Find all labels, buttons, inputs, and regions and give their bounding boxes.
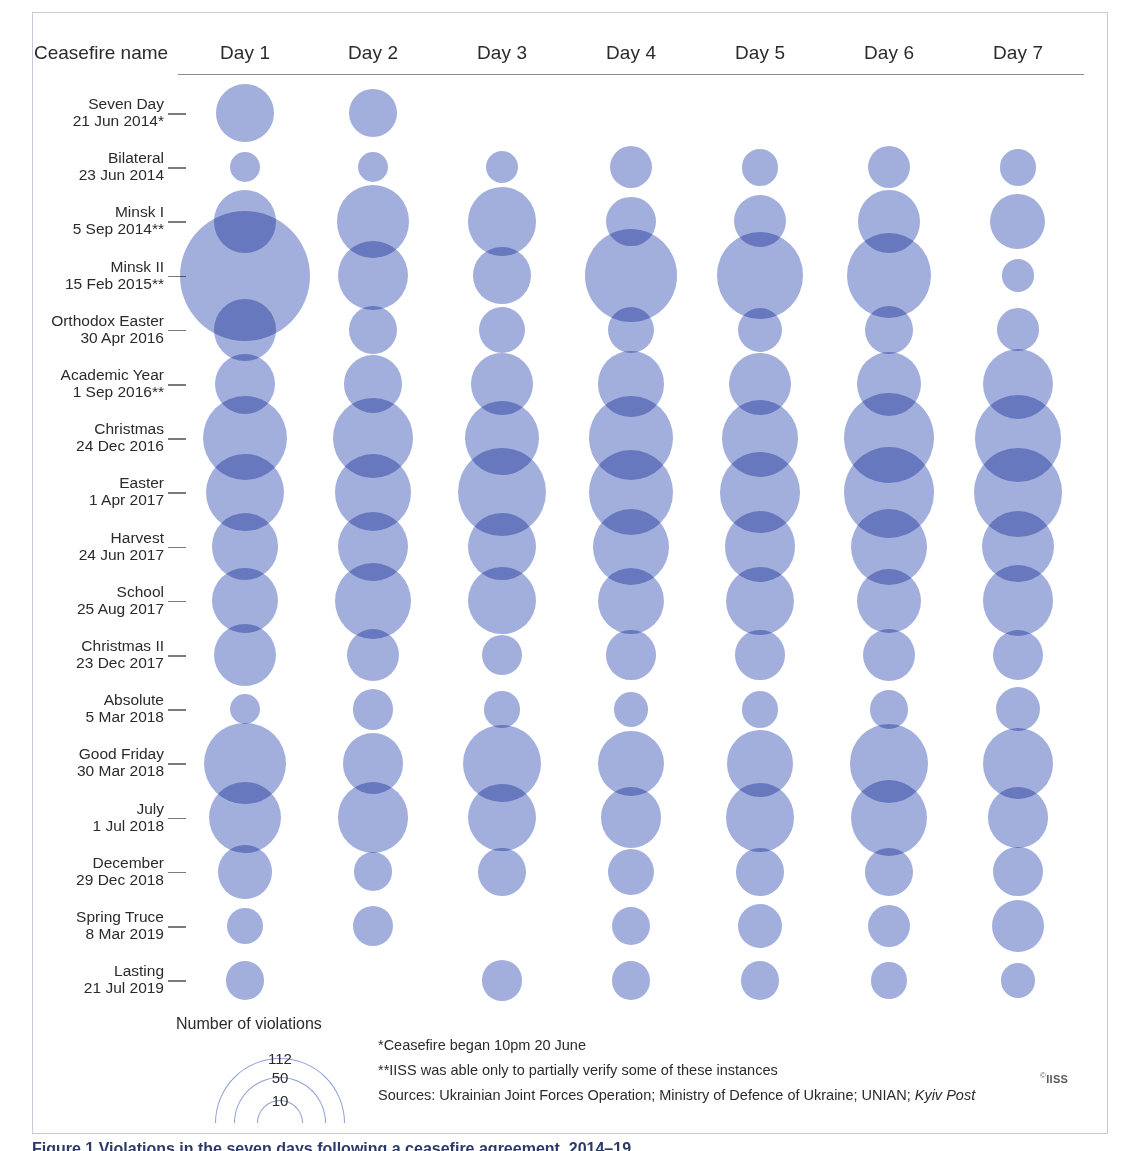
size-legend: Number of violations 1125010 [176,1015,386,1135]
row-date: 23 Dec 2017 [4,654,164,671]
row-name: Orthodox Easter [4,312,164,329]
bubble [993,847,1042,896]
footnote-1: *Ceasefire began 10pm 20 June [378,1033,975,1058]
row-date: 21 Jun 2014* [4,112,164,129]
bubble [983,565,1054,636]
row-tick [168,384,186,386]
bubble [601,787,661,847]
bubble [608,849,654,895]
row-label-july: July1 Jul 2018 [4,800,164,834]
bubble [871,962,908,999]
row-name: Minsk I [4,203,164,220]
row-date: 1 Sep 2016** [4,383,164,400]
column-header-day-6: Day 6 [829,42,949,64]
bubble [863,629,915,681]
bubble [473,247,531,305]
bubble [226,961,265,1000]
bubble [717,232,804,319]
row-label-good-friday: Good Friday30 Mar 2018 [4,745,164,779]
row-name: Minsk II [4,258,164,275]
bubble [1000,149,1037,186]
bubble [598,568,664,634]
row-date: 1 Apr 2017 [4,491,164,508]
row-name: Christmas [4,420,164,437]
row-date: 29 Dec 2018 [4,871,164,888]
bubble [726,783,794,851]
bubble [353,689,394,730]
bubble [338,241,408,311]
bubble [865,848,913,896]
legend-value-10: 10 [260,1092,300,1109]
bubble [218,845,272,899]
figure-caption: Figure 1 Violations in the seven days fo… [32,1140,631,1151]
row-date: 30 Apr 2016 [4,329,164,346]
footnote-2: **IISS was able only to partially verify… [378,1058,975,1083]
row-label-easter: Easter1 Apr 2017 [4,474,164,508]
column-header-day-7: Day 7 [958,42,1078,64]
bubble [868,146,911,189]
bubble [358,152,388,182]
row-name: Seven Day [4,95,164,112]
row-name: Academic Year [4,366,164,383]
row-tick [168,438,186,440]
bubble [851,780,927,856]
row-date: 21 Jul 2019 [4,979,164,996]
row-name: Spring Truce [4,908,164,925]
sources-publication: Kyiv Post [915,1087,975,1103]
row-name: July [4,800,164,817]
row-name: Absolute [4,691,164,708]
row-date: 25 Aug 2017 [4,600,164,617]
bubble [347,629,399,681]
bubble [214,299,276,361]
bubble [478,848,526,896]
bubble [857,569,921,633]
bubble [468,187,536,255]
legend-value-112: 112 [260,1050,300,1067]
row-date: 24 Dec 2016 [4,437,164,454]
bubble [354,852,393,891]
bubble [216,84,274,142]
bubble [990,194,1045,249]
row-tick [168,547,186,549]
bubble [353,906,394,947]
bubble [482,635,523,676]
row-name: December [4,854,164,871]
row-name: Harvest [4,529,164,546]
bubble [482,960,523,1001]
bubble [865,306,913,354]
row-label-minsk-ii: Minsk II15 Feb 2015** [4,258,164,292]
bubble [742,691,779,728]
column-header-day-2: Day 2 [313,42,433,64]
bubble [992,900,1044,952]
row-date: 8 Mar 2019 [4,925,164,942]
row-label-orthodox-easter: Orthodox Easter30 Apr 2016 [4,312,164,346]
row-tick [168,926,186,928]
row-label-absolute: Absolute5 Mar 2018 [4,691,164,725]
bubble [993,630,1044,681]
bubble [598,731,663,796]
bubble [209,782,281,854]
bubble [608,307,654,353]
row-tick [168,709,186,711]
bubble [997,308,1040,351]
bubble [996,687,1040,731]
row-label-minsk-i: Minsk I5 Sep 2014** [4,203,164,237]
row-date: 15 Feb 2015** [4,275,164,292]
row-label-bilateral: Bilateral23 Jun 2014 [4,149,164,183]
row-name: School [4,583,164,600]
header-rule [178,74,1084,75]
bubble [612,961,651,1000]
bubble-chart: Ceasefire name Day 1Day 2Day 3Day 4Day 5… [0,0,1140,1151]
bubble [230,152,260,182]
row-name: Christmas II [4,637,164,654]
row-label-christmas: Christmas24 Dec 2016 [4,420,164,454]
row-tick [168,601,186,603]
bubble [479,307,525,353]
row-label-seven-day: Seven Day21 Jun 2014* [4,95,164,129]
bubble [484,691,521,728]
row-label-school: School25 Aug 2017 [4,583,164,617]
row-date: 23 Jun 2014 [4,166,164,183]
bubble [227,908,264,945]
row-name: Lasting [4,962,164,979]
row-label-harvest: Harvest24 Jun 2017 [4,529,164,563]
